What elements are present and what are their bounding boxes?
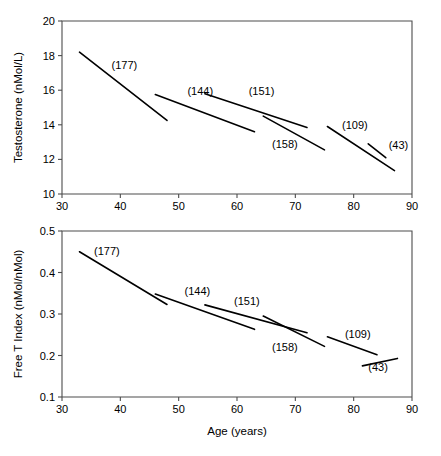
data-line-151: [205, 305, 307, 333]
x-axis-tick-label: 50: [173, 200, 185, 212]
y-axis-tick-label: 16: [43, 84, 55, 96]
x-axis-tick-label: 70: [289, 200, 301, 212]
series-annotation-177: (177): [112, 59, 138, 71]
y-axis-tick-label: 0.5: [40, 225, 55, 237]
y-axis-tick-label: 20: [43, 15, 55, 27]
series-annotation-43: (43): [368, 361, 388, 373]
y-axis-tick-label: 12: [43, 153, 55, 165]
plot-frame: [62, 21, 412, 194]
y-axis-title: Free T Index (nMol/nMol): [12, 249, 24, 378]
x-axis-title: Age (years): [207, 425, 267, 437]
y-axis-title: Testosterone (nMol/L): [12, 52, 24, 163]
data-line-177: [80, 252, 168, 305]
series-annotation-151: (151): [249, 85, 275, 97]
y-axis-tick-label: 14: [43, 119, 55, 131]
x-axis-tick-label: 50: [173, 403, 185, 415]
y-axis-tick-label: 10: [43, 188, 55, 200]
x-axis-tick-label: 40: [114, 403, 126, 415]
series-annotation-158: (158): [272, 138, 298, 150]
chart-panel-testosterone: 10121416182030405060708090Testosterone (…: [0, 0, 441, 220]
x-axis-tick-label: 90: [406, 403, 418, 415]
y-axis-tick-label: 0.1: [40, 391, 55, 403]
data-line-109: [327, 127, 394, 171]
testosterone-plot: 10121416182030405060708090Testosterone (…: [0, 0, 441, 220]
series-annotation-151: (151): [234, 295, 260, 307]
x-axis-tick-label: 80: [348, 403, 360, 415]
series-annotation-43: (43): [389, 139, 409, 151]
figure-root: 10121416182030405060708090Testosterone (…: [0, 0, 441, 456]
x-axis-tick-label: 60: [231, 200, 243, 212]
x-axis-tick-label: 90: [406, 200, 418, 212]
x-axis-tick-label: 30: [56, 200, 68, 212]
chart-panel-free-t-index: 0.10.20.30.40.530405060708090Free T Inde…: [0, 218, 441, 456]
y-axis-tick-label: 0.2: [40, 350, 55, 362]
free-t-index-plot: 0.10.20.30.40.530405060708090Free T Inde…: [0, 218, 441, 456]
series-annotation-158: (158): [272, 341, 298, 353]
data-line-144: [155, 95, 254, 132]
x-axis-tick-label: 60: [231, 403, 243, 415]
series-annotation-177: (177): [94, 245, 120, 257]
x-axis-tick-label: 40: [114, 200, 126, 212]
x-axis-tick-label: 30: [56, 403, 68, 415]
data-line-151: [205, 94, 307, 128]
series-annotation-109: (109): [345, 328, 371, 340]
x-axis-tick-label: 70: [289, 403, 301, 415]
series-annotation-109: (109): [342, 119, 368, 131]
y-axis-tick-label: 0.4: [40, 267, 55, 279]
y-axis-tick-label: 0.3: [40, 308, 55, 320]
y-axis-tick-label: 18: [43, 50, 55, 62]
series-annotation-144: (144): [185, 285, 211, 297]
x-axis-tick-label: 80: [348, 200, 360, 212]
